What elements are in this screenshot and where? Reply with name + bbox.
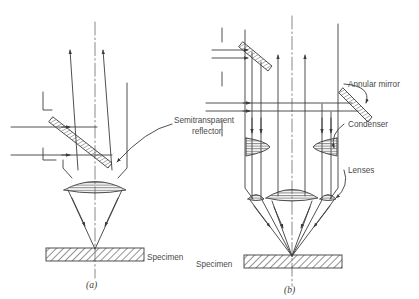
figure-container: Semitransparent reflector Specimen (a) A… <box>0 0 419 299</box>
bracket-lower-a <box>43 148 56 160</box>
optical-diagram: Semitransparent reflector Specimen (a) A… <box>0 0 419 299</box>
condenser-lens-left-b <box>246 138 270 156</box>
cone-arrow-left-a <box>72 198 85 226</box>
objective-lens-a <box>64 182 126 194</box>
semitransparent-reflector-plate <box>49 117 112 168</box>
ray-up-right-a <box>103 50 112 170</box>
upper-mirror-plate-b <box>239 42 272 71</box>
panel-b <box>206 16 372 286</box>
converge-2-b <box>262 200 292 256</box>
leader-semitransparent-reflector <box>117 124 172 162</box>
label-lenses: Lenses <box>348 166 374 175</box>
converge-arr-1-b <box>254 206 270 227</box>
ray-up-left-a <box>70 50 78 170</box>
cone-arrow-right-a <box>105 198 118 226</box>
label-condenser: Condenser <box>348 120 388 129</box>
label-semitransparent-reflector-line2: reflector <box>192 127 222 136</box>
converge-5-b <box>292 200 322 256</box>
specimen-bar-b <box>244 255 342 268</box>
label-specimen-b: Specimen <box>196 260 233 269</box>
caption-b: (b) <box>284 285 295 296</box>
label-specimen-a: Specimen <box>147 253 184 262</box>
objective-lens-b <box>266 190 318 202</box>
tube-wall-left-a <box>63 160 72 178</box>
label-semitransparent-reflector-line1: Semitransparent <box>174 116 235 125</box>
specimen-bar-a <box>46 248 144 261</box>
panel-a <box>11 22 172 278</box>
bracket-upper-a <box>43 92 52 110</box>
caption-a: (a) <box>86 280 97 291</box>
tube-wall-right-a <box>118 83 127 178</box>
label-annular-mirror: Annular mirror <box>348 80 400 89</box>
converge-arr-4-b <box>314 206 330 227</box>
annular-mirror-plate-b <box>339 88 372 122</box>
leader-lenses <box>336 170 346 198</box>
